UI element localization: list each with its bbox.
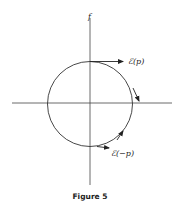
vector-bottom-arrow bbox=[97, 147, 109, 149]
tangent-arrow-right bbox=[133, 88, 139, 101]
label-e-p: ℰ(p) bbox=[128, 57, 144, 66]
figure-caption: Figure 5 bbox=[72, 192, 107, 201]
label-e-minus-p: ℰ(−p) bbox=[111, 149, 134, 158]
figure-canvas: f ℰ(p) ℰ(−p) Figure 5 bbox=[0, 0, 181, 203]
axis-label-f: f bbox=[87, 12, 93, 21]
